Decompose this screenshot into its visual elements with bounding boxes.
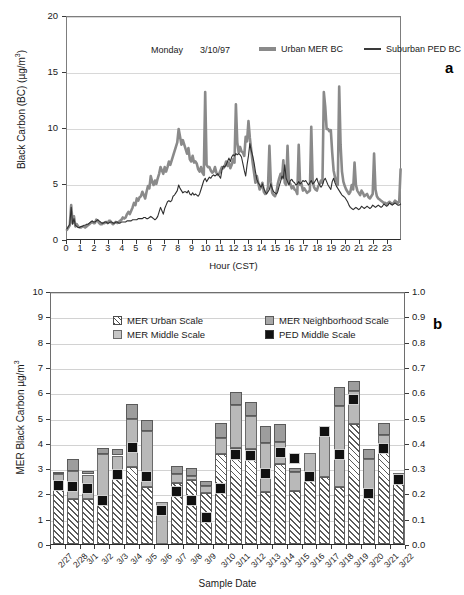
ped-middle-scale-marker[interactable]: [156, 505, 167, 516]
ped-middle-scale-marker[interactable]: [141, 471, 152, 482]
x-tick-mark: [192, 240, 193, 244]
ped-middle-scale-marker[interactable]: [348, 394, 359, 405]
ped-middle-scale-marker[interactable]: [67, 481, 78, 492]
ped-middle-scale-marker[interactable]: [275, 447, 286, 458]
bar-segment-mer-neighborhood-scale[interactable]: [67, 459, 79, 470]
x-tick-mark: [80, 545, 81, 549]
bar-segment-mer-neighborhood-scale[interactable]: [215, 423, 227, 438]
bar-segment-mer-urban-scale[interactable]: [334, 487, 346, 544]
bar-segment-mer-neighborhood-scale[interactable]: [97, 448, 109, 454]
bar-segment-mer-urban-scale[interactable]: [126, 467, 138, 544]
ped-middle-scale-marker[interactable]: [215, 483, 226, 494]
ped-middle-scale-marker[interactable]: [260, 468, 271, 479]
right-y-tick-mark: [405, 393, 409, 394]
x-tick-mark: [66, 240, 67, 244]
ped-middle-scale-marker[interactable]: [304, 471, 315, 482]
bar-segment-mer-urban-scale[interactable]: [348, 424, 360, 544]
y-title-exponent-a: 3: [14, 53, 21, 57]
ped-middle-scale-marker[interactable]: [53, 480, 64, 491]
bar-segment-mer-neighborhood-scale[interactable]: [260, 426, 272, 442]
bar-segment-mer-middle-scale[interactable]: [230, 405, 242, 448]
bar-segment-mer-middle-scale[interactable]: [171, 474, 183, 483]
bar-segment-mer-middle-scale[interactable]: [215, 438, 227, 454]
bar-segment-mer-urban-scale[interactable]: [141, 487, 153, 544]
x-tick-label: 3/9: [203, 551, 218, 566]
bar-segment-mer-neighborhood-scale[interactable]: [186, 468, 198, 476]
bar-segment-mer-neighborhood-scale[interactable]: [53, 472, 65, 475]
bar-segment-mer-urban-scale[interactable]: [274, 464, 286, 544]
ped-middle-scale-marker[interactable]: [334, 449, 345, 460]
bar-group[interactable]: [82, 291, 94, 544]
x-tick-label: 0: [59, 244, 73, 253]
x-tick-mark: [248, 240, 249, 244]
ped-middle-scale-marker[interactable]: [112, 469, 123, 480]
ped-middle-scale-marker[interactable]: [363, 488, 374, 499]
x-tick-label: 3/6: [158, 551, 173, 566]
bar-segment-mer-urban-scale[interactable]: [260, 492, 272, 544]
x-tick-mark: [289, 240, 290, 244]
bar-segment-mer-neighborhood-scale[interactable]: [245, 402, 257, 416]
bar-segment-mer-neighborhood-scale[interactable]: [82, 471, 94, 475]
ped-middle-scale-marker[interactable]: [245, 450, 256, 461]
legend-swatch-ped-middle-scale: [265, 330, 274, 339]
ped-middle-scale-marker[interactable]: [171, 486, 182, 497]
bar-segment-mer-middle-scale[interactable]: [245, 416, 257, 449]
bar-segment-mer-urban-scale[interactable]: [393, 482, 405, 544]
left-y-tick-label: 3: [23, 464, 43, 474]
bar-segment-mer-middle-scale[interactable]: [186, 476, 198, 480]
x-tick-label: 9: [185, 244, 199, 253]
bar-segment-mer-urban-scale[interactable]: [82, 499, 94, 545]
bar-segment-mer-neighborhood-scale[interactable]: [200, 481, 212, 486]
bar-segment-mer-neighborhood-scale[interactable]: [141, 420, 153, 431]
bar-segment-mer-neighborhood-scale[interactable]: [112, 449, 124, 455]
ped-middle-scale-marker[interactable]: [82, 483, 93, 494]
bar-segment-mer-urban-scale[interactable]: [378, 444, 390, 544]
bar-segment-mer-urban-scale[interactable]: [304, 477, 316, 544]
bar-segment-mer-urban-scale[interactable]: [363, 493, 375, 544]
bar-segment-mer-neighborhood-scale[interactable]: [378, 423, 390, 436]
bar-segment-mer-neighborhood-scale[interactable]: [289, 468, 301, 472]
bar-group[interactable]: [67, 291, 79, 544]
x-tick-mark: [387, 240, 388, 244]
bar-segment-mer-middle-scale[interactable]: [200, 486, 212, 494]
x-tick-label: 7: [157, 244, 171, 253]
right-y-tick-label: 0.7: [412, 363, 436, 373]
bar-segment-mer-neighborhood-scale[interactable]: [348, 381, 360, 391]
bar-segment-mer-neighborhood-scale[interactable]: [274, 424, 286, 442]
bar-segment-mer-neighborhood-scale[interactable]: [334, 387, 346, 406]
bar-segment-mer-urban-scale[interactable]: [67, 499, 79, 545]
x-tick-mark: [346, 545, 347, 549]
ped-middle-scale-marker[interactable]: [289, 453, 300, 464]
bar-segment-mer-urban-scale[interactable]: [289, 491, 301, 544]
ped-middle-scale-marker[interactable]: [319, 426, 330, 437]
bar-segment-mer-urban-scale[interactable]: [53, 485, 65, 545]
ped-middle-scale-marker[interactable]: [186, 495, 197, 506]
ped-middle-scale-marker[interactable]: [393, 474, 404, 485]
ped-middle-scale-marker[interactable]: [127, 442, 138, 453]
bar-group[interactable]: [53, 291, 65, 544]
x-tick-label: 20: [338, 244, 352, 253]
bar-segment-mer-urban-scale[interactable]: [97, 501, 109, 544]
ped-middle-scale-marker[interactable]: [201, 512, 212, 523]
bar-segment-mer-neighborhood-scale[interactable]: [126, 404, 138, 419]
ped-middle-scale-marker[interactable]: [97, 495, 108, 506]
bar-group[interactable]: [97, 291, 109, 544]
ped-middle-scale-marker[interactable]: [378, 443, 389, 454]
ped-middle-scale-marker[interactable]: [230, 449, 241, 460]
bar-segment-mer-middle-scale[interactable]: [289, 472, 301, 491]
bar-segment-mer-neighborhood-scale[interactable]: [230, 392, 242, 405]
bar-segment-mer-urban-scale[interactable]: [230, 448, 242, 544]
right-y-tick-mark: [405, 343, 409, 344]
bar-segment-mer-urban-scale[interactable]: [245, 449, 257, 544]
bar-segment-mer-urban-scale[interactable]: [186, 480, 198, 545]
bar-segment-mer-neighborhood-scale[interactable]: [171, 466, 183, 475]
bar-segment-mer-middle-scale[interactable]: [334, 406, 346, 487]
x-tick-mark: [317, 240, 318, 244]
bar-segment-mer-urban-scale[interactable]: [215, 454, 227, 544]
x-tick-mark: [257, 545, 258, 549]
x-tick-label: 14: [254, 244, 268, 253]
bar-segment-mer-urban-scale[interactable]: [319, 477, 331, 544]
bar-segment-mer-urban-scale[interactable]: [112, 472, 124, 544]
panel-a-y-axis-title: Black Carbon (BC) (µg/m3): [16, 15, 27, 205]
bar-segment-mer-neighborhood-scale[interactable]: [363, 449, 375, 459]
